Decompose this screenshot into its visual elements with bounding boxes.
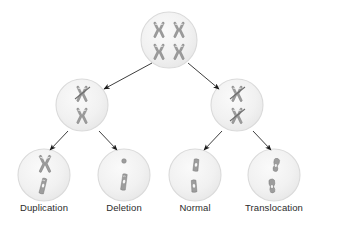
arrow-parent-to-left-intermediate xyxy=(104,63,152,89)
label-translocation: Translocation xyxy=(245,202,303,213)
cell-membrane xyxy=(18,149,70,201)
label-deletion: Deletion xyxy=(106,202,142,213)
label-duplication: Duplication xyxy=(20,202,68,213)
chromosome-aberration-diagram xyxy=(0,0,337,232)
chromosome-fragment xyxy=(122,159,127,164)
cell-membrane xyxy=(248,149,300,201)
arrow-right-to-translocation xyxy=(253,131,271,150)
right-intermediate-cell[interactable] xyxy=(211,79,263,131)
cell-membrane xyxy=(141,12,197,68)
translocation-cell[interactable] xyxy=(248,149,300,201)
parent-cell[interactable] xyxy=(141,12,197,68)
arrow-left-to-duplication xyxy=(50,131,68,150)
left-intermediate-cell[interactable] xyxy=(56,79,108,131)
cell-membrane xyxy=(169,149,221,201)
normal-cell[interactable] xyxy=(169,149,221,201)
arrow-right-to-normal xyxy=(204,131,222,150)
label-normal: Normal xyxy=(179,202,210,213)
cell-membrane xyxy=(211,79,263,131)
cell-membrane xyxy=(56,79,108,131)
arrow-left-to-deletion xyxy=(99,131,117,150)
arrow-parent-to-right-intermediate xyxy=(188,63,219,89)
chromosome-normal xyxy=(191,180,197,193)
duplication-cell[interactable] xyxy=(18,149,70,201)
diagram-canvas: Duplication Deletion Normal Translocatio… xyxy=(0,0,337,232)
deletion-cell[interactable] xyxy=(98,149,150,201)
